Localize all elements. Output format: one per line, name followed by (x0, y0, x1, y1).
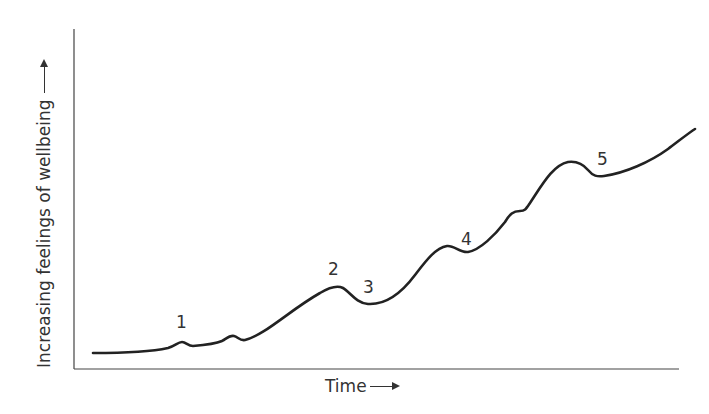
y-axis-label-text: Increasing feelings of wellbeing (34, 100, 54, 369)
wellbeing-diagram: Increasing feelings of wellbeing Time 1 … (0, 0, 709, 414)
marker-4: 4 (461, 229, 472, 249)
marker-5: 5 (597, 149, 608, 169)
x-axis-label: Time (325, 376, 398, 396)
marker-3: 3 (363, 277, 374, 297)
marker-2: 2 (328, 259, 339, 279)
y-axis-label: Increasing feelings of wellbeing (34, 62, 54, 369)
x-axis-label-text: Time (325, 376, 367, 396)
arrow-right-icon (370, 386, 398, 387)
chart-canvas (0, 0, 709, 414)
marker-1: 1 (176, 312, 187, 332)
arrow-up-icon (44, 62, 45, 94)
